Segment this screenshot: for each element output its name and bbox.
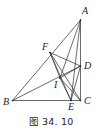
segment-ic bbox=[60, 78, 81, 101]
geometry-diagram: ABCDEFI bbox=[0, 0, 102, 116]
vertex-label-d: D bbox=[84, 61, 91, 71]
vertex-point-a bbox=[80, 19, 82, 21]
figure-container: ABCDEFI 图 34. 10 bbox=[0, 0, 102, 138]
figure-caption: 图 34. 10 bbox=[0, 117, 102, 128]
vertex-label-f: F bbox=[42, 42, 48, 52]
cevian-bd bbox=[13, 66, 81, 101]
vertex-point-i bbox=[59, 77, 61, 79]
vertex-point-f bbox=[49, 52, 51, 54]
vertex-point-b bbox=[12, 100, 14, 102]
vertex-point-d bbox=[80, 65, 82, 67]
vertex-label-b: B bbox=[3, 97, 9, 107]
vertex-label-a: A bbox=[82, 6, 88, 16]
side-ab bbox=[13, 20, 81, 101]
vertex-label-c: C bbox=[84, 96, 91, 106]
segment-group bbox=[13, 20, 81, 101]
segment-ie bbox=[60, 78, 71, 101]
vertex-point-c bbox=[80, 100, 82, 102]
vertex-label-e: E bbox=[68, 102, 74, 112]
vertex-label-i: I bbox=[54, 80, 57, 90]
